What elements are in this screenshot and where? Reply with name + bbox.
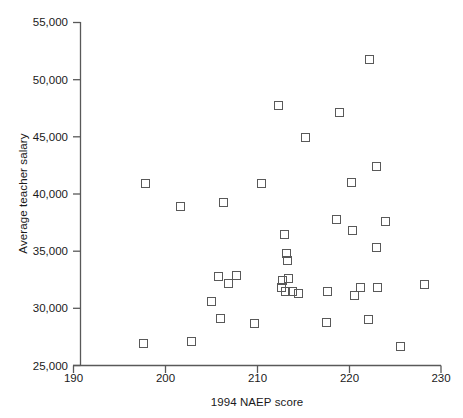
data-point — [381, 217, 390, 226]
data-point — [214, 272, 223, 281]
scatter-chart: 55,000 50,000 45,000 40,000 35,000 30,00… — [0, 0, 463, 418]
data-point — [283, 256, 292, 265]
y-axis-label: Average teacher salary — [14, 22, 32, 365]
x-tick-label: 220 — [330, 372, 370, 385]
data-point — [294, 289, 303, 298]
data-point — [350, 291, 359, 300]
x-axis-label: 1994 NAEP score — [73, 396, 441, 408]
data-point — [356, 283, 365, 292]
data-point — [373, 283, 382, 292]
data-point — [224, 279, 233, 288]
data-point — [301, 133, 310, 142]
x-tick-label: 200 — [146, 372, 186, 385]
data-point — [139, 339, 148, 348]
data-point — [232, 271, 241, 280]
data-point — [372, 162, 381, 171]
data-point — [219, 198, 228, 207]
data-point — [335, 108, 344, 117]
x-tick-label: 210 — [238, 372, 278, 385]
data-point — [250, 319, 259, 328]
data-point — [323, 287, 332, 296]
data-point — [284, 274, 293, 283]
data-point — [280, 230, 289, 239]
data-point — [332, 215, 341, 224]
y-axis-ticks — [73, 23, 81, 366]
data-point — [365, 55, 374, 64]
data-point — [396, 342, 405, 351]
data-point — [364, 315, 373, 324]
data-point — [187, 337, 196, 346]
data-point — [372, 243, 381, 252]
data-point — [257, 179, 266, 188]
x-tick-label: 230 — [421, 372, 461, 385]
data-point — [347, 178, 356, 187]
data-point — [274, 101, 283, 110]
x-tick-label: 190 — [54, 372, 94, 385]
data-point — [348, 226, 357, 235]
data-point — [176, 202, 185, 211]
data-point — [216, 314, 225, 323]
chart-axes — [0, 0, 463, 418]
data-point — [420, 280, 429, 289]
data-point — [141, 179, 150, 188]
data-point — [322, 318, 331, 327]
data-point — [207, 297, 216, 306]
